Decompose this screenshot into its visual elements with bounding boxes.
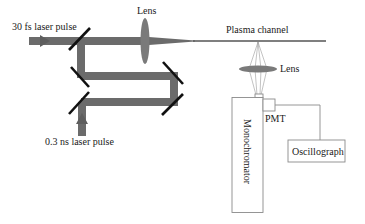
monochromator-label: Monochromator: [242, 119, 253, 185]
fs-beam-arrowhead: [40, 35, 50, 47]
beam-paths: [29, 35, 195, 136]
loop-upper-horizontal: [81, 72, 177, 80]
focus-lens-label: Lens: [137, 5, 157, 16]
focus-lens: [141, 18, 150, 64]
ns-beam-arrowhead: [76, 113, 88, 124]
entrance-slit: [255, 94, 263, 98]
loop-lower-horizontal: [81, 98, 177, 106]
main-beam: [81, 37, 149, 45]
plasma-channel-label: Plasma channel: [226, 24, 289, 35]
pmt-label: PMT: [265, 113, 286, 124]
collection-lens: [239, 66, 277, 73]
oscillograph-label: Oscillograph: [292, 146, 344, 157]
focused-beam-taper: [149, 37, 195, 45]
pmt-box: [263, 99, 275, 111]
ns-pulse-label: 0.3 ns laser pulse: [45, 136, 114, 147]
fs-pulse-label: 30 fs laser pulse: [12, 21, 77, 32]
collection-lens-label: Lens: [280, 63, 300, 74]
optical-setup-diagram: 30 fs laser pulse 0.3 ns laser pulse Len…: [0, 0, 365, 224]
